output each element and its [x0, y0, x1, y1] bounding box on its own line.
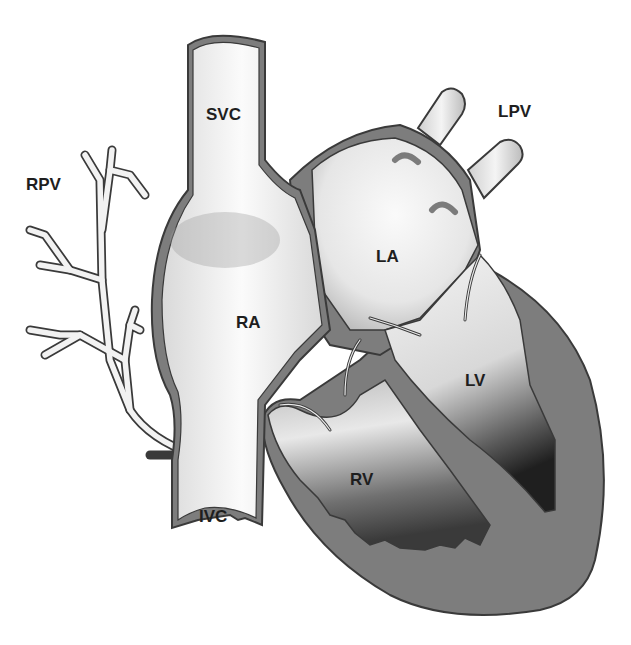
heart-diagram: SVC RPV LPV LA RA LV RV IVC	[0, 0, 631, 645]
label-ra: RA	[236, 313, 261, 332]
label-svc: SVC	[206, 105, 241, 124]
label-lv: LV	[465, 371, 486, 390]
label-rv: RV	[350, 470, 374, 489]
label-ivc: IVC	[199, 507, 227, 526]
label-la: LA	[376, 247, 399, 266]
label-rpv: RPV	[26, 175, 62, 194]
label-lpv: LPV	[498, 102, 532, 121]
